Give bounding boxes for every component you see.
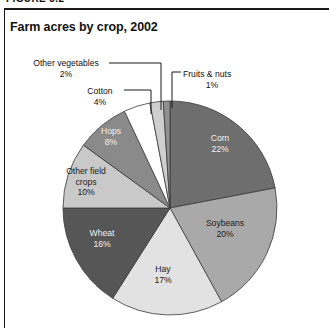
slice-label-corn: Corn 22% xyxy=(196,133,244,154)
slice-label-other-field-crops: Other field crops 10% xyxy=(58,166,114,198)
slice-label-other-field-crops-name2: crops xyxy=(75,177,96,187)
slice-label-hops-name: Hops xyxy=(101,126,121,136)
callout-fruits-nuts: Fruits & nuts 1% xyxy=(183,69,263,90)
callout-other-vegetables-pct: 2% xyxy=(23,69,109,80)
callout-cotton-name: Cotton xyxy=(87,86,112,96)
callout-fruits-nuts-pct: 1% xyxy=(183,80,241,91)
slice-label-wheat: Wheat 16% xyxy=(80,228,124,249)
callout-cotton-pct: 4% xyxy=(73,97,127,108)
slice-label-other-field-crops-name: Other field xyxy=(66,166,106,176)
slice-label-soybeans: Soybeans 20% xyxy=(196,218,254,239)
callout-other-vegetables-name: Other vegetables xyxy=(33,58,98,68)
slice-label-hops-pct: 8% xyxy=(105,137,117,147)
slice-label-other-field-crops-pct: 10% xyxy=(77,187,94,197)
slice-label-soybeans-pct: 20% xyxy=(216,229,233,239)
slice-label-wheat-pct: 16% xyxy=(93,239,110,249)
callout-other-vegetables: Other vegetables 2% xyxy=(23,58,109,79)
callout-cotton: Cotton 4% xyxy=(73,86,127,107)
slice-label-corn-name: Corn xyxy=(211,133,230,143)
slice-label-soybeans-name: Soybeans xyxy=(206,218,244,228)
callout-fruits-nuts-name: Fruits & nuts xyxy=(183,69,231,79)
slice-label-hay-name: Hay xyxy=(155,264,170,274)
slice-label-hay: Hay 17% xyxy=(143,264,183,285)
slice-label-hops: Hops 8% xyxy=(92,126,130,147)
slice-label-wheat-name: Wheat xyxy=(90,228,115,238)
slice-label-hay-pct: 17% xyxy=(154,275,171,285)
slice-label-corn-pct: 22% xyxy=(211,144,228,154)
